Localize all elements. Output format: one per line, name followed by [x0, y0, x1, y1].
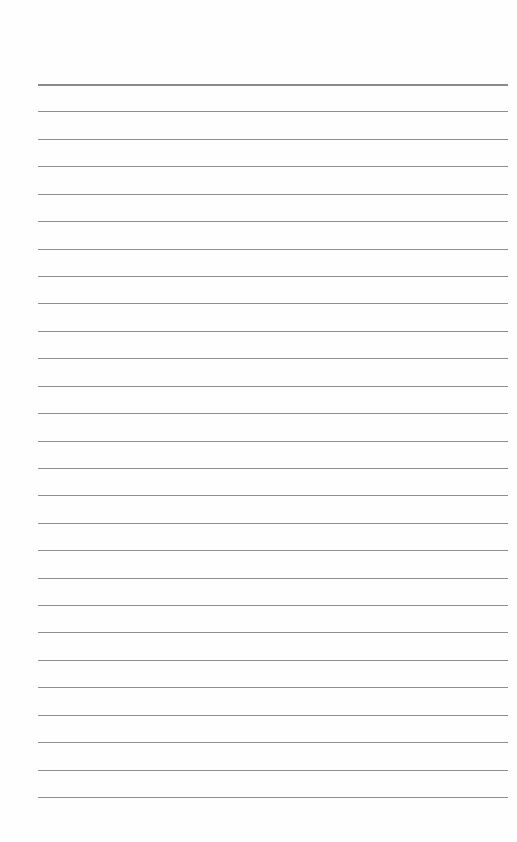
ruled-line — [38, 742, 508, 743]
ruled-line — [38, 770, 508, 771]
ruled-line — [38, 687, 508, 688]
ruled-line — [38, 358, 508, 359]
ruled-line — [38, 221, 508, 222]
ruled-line — [38, 111, 508, 112]
ruled-line — [38, 413, 508, 414]
ruled-line — [38, 441, 508, 442]
ruled-line — [38, 303, 508, 304]
ruled-line — [38, 523, 508, 524]
ruled-line — [38, 632, 508, 633]
ruled-line — [38, 249, 508, 250]
ruled-line — [38, 331, 508, 332]
ruled-page — [0, 0, 517, 842]
ruled-line — [38, 660, 508, 661]
ruled-line — [38, 139, 508, 140]
ruled-line — [38, 84, 508, 86]
ruled-line — [38, 495, 508, 496]
ruled-line — [38, 578, 508, 579]
ruled-line — [38, 715, 508, 716]
ruled-line — [38, 276, 508, 277]
ruled-line — [38, 386, 508, 387]
ruled-line — [38, 468, 508, 469]
ruled-line — [38, 550, 508, 551]
ruled-line — [38, 797, 508, 798]
ruled-line — [38, 605, 508, 606]
ruled-line — [38, 194, 508, 195]
ruled-line — [38, 166, 508, 167]
